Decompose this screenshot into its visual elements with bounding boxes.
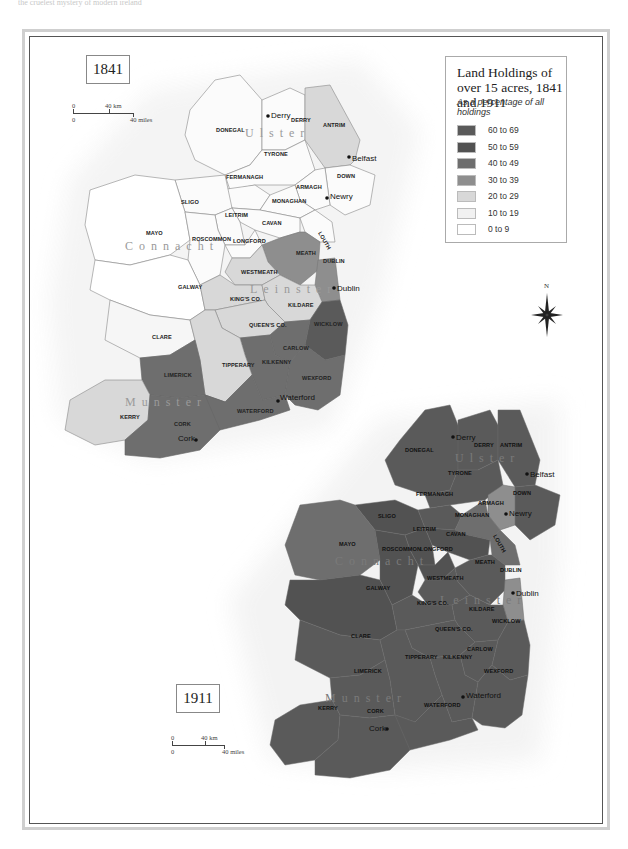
- label-longford-1911: LONGFORD: [420, 546, 453, 552]
- label-cavan-1841: CAVAN: [262, 220, 282, 226]
- town-belfast-1841: Belfast: [352, 154, 377, 163]
- label-roscommon-1911: ROSCOMMON: [382, 546, 421, 552]
- label-queensco-1911: QUEEN'S CO.: [435, 626, 473, 632]
- legend-subtitle: As a percentage of all holdings: [457, 97, 566, 117]
- legend-label: 0 to 9: [488, 224, 509, 234]
- label-westmeath-1911: WESTMEATH: [427, 575, 464, 581]
- legend-label: 40 to 49: [488, 158, 519, 168]
- legend-swatch-20-29: [457, 191, 476, 202]
- label-tyrone-1911: TYRONE: [448, 470, 472, 476]
- town-derry-1911: Derry: [456, 433, 476, 442]
- label-meath-1911: MEATH: [475, 559, 495, 565]
- label-tipperary-1841: TIPPERARY: [222, 362, 255, 368]
- label-waterford-1841: WATERFORD: [237, 408, 274, 414]
- legend-item: 40 to 49: [457, 157, 519, 169]
- legend-label: 20 to 29: [488, 191, 519, 201]
- town-cork-1911: Cork: [369, 724, 387, 733]
- label-meath-1841: MEATH: [296, 250, 316, 256]
- label-tyrone-1841: TYRONE: [264, 151, 288, 157]
- label-kerry-1911: KERRY: [318, 705, 338, 711]
- label-carlow-1911: CARLOW: [467, 646, 493, 652]
- town-dot-belfast-1841: [347, 155, 351, 159]
- label-leitrim-1841: LEITRIM: [225, 212, 248, 218]
- label-clare-1841: CLARE: [152, 334, 172, 340]
- town-cork-1841: Cork: [178, 434, 196, 443]
- town-dot-waterford-1911: [461, 695, 465, 699]
- label-leitrim-1911: LEITRIM: [413, 526, 436, 532]
- scale-bar-1841: 0 40 km 0 40 miles: [72, 102, 182, 128]
- label-clare-1911: CLARE: [351, 633, 371, 639]
- legend-item: 0 to 9: [457, 223, 509, 235]
- town-derry-1841: Derry: [271, 111, 291, 120]
- label-cork-1911: CORK: [367, 708, 384, 714]
- label-queensco-1841: QUEEN'S CO.: [249, 322, 287, 328]
- label-kingsco-1911: KING'S CO.: [417, 600, 449, 606]
- label-kildare-1911: KILDARE: [469, 606, 495, 612]
- label-antrim-1841: ANTRIM: [323, 122, 346, 128]
- legend-swatch-40-49: [457, 158, 476, 169]
- town-dot-newry-1911: [504, 512, 508, 516]
- legend-swatch-50-59: [457, 142, 476, 153]
- label-dublin-1911: DUBLIN: [500, 567, 522, 573]
- label-galway-1841: GALWAY: [178, 284, 202, 290]
- town-dublin-1911: Dublin: [516, 589, 539, 598]
- province-connacht-1911: Connacht: [335, 554, 429, 568]
- map-legend: Land Holdings of over 15 acres, 1841 and…: [445, 56, 567, 243]
- legend-item: 50 to 59: [457, 141, 519, 153]
- label-sligo-1841: SLIGO: [181, 199, 199, 205]
- label-cavan-1911: CAVAN: [446, 531, 466, 537]
- province-leinster-1911: Leinster: [440, 593, 527, 607]
- label-donegal-1841: DONEGAL: [216, 127, 245, 133]
- label-derry-1841: DERRY: [291, 117, 311, 123]
- year-label-1841: 1841: [93, 61, 123, 78]
- legend-swatch-60-69: [457, 125, 476, 136]
- label-down-1911: DOWN: [513, 490, 531, 496]
- legend-label: 30 to 39: [488, 175, 519, 185]
- scale-km-label-1911: 40 km: [201, 734, 217, 741]
- label-monaghan-1841: MONAGHAN: [272, 198, 306, 204]
- scale-mi-label-1841: 40 miles: [130, 116, 152, 123]
- label-galway-1911: GALWAY: [366, 585, 390, 591]
- province-ulster-1841: Ulster: [245, 126, 310, 140]
- scale-km-zero-1841: 0: [72, 102, 75, 109]
- label-fermanagh-1911: FERMANAGH: [416, 491, 453, 497]
- compass-north-label: N: [544, 282, 549, 290]
- town-waterford-1841: Waterford: [280, 393, 315, 402]
- label-tipperary-1911: TIPPERARY: [405, 654, 438, 660]
- town-belfast-1911: Belfast: [530, 470, 555, 479]
- scale-bar-1911: 0 40 km 0 40 miles: [171, 734, 281, 760]
- town-dot-belfast-1911: [525, 472, 529, 476]
- year-box-1911: 1911: [176, 684, 220, 713]
- compass-rose-icon: [531, 293, 563, 337]
- label-sligo-1911: SLIGO: [378, 513, 396, 519]
- legend-item: 10 to 19: [457, 207, 519, 219]
- map-1911: Ulster Connacht Leinster Munster DONEGAL…: [230, 400, 560, 778]
- town-dublin-1841: Dublin: [337, 284, 360, 293]
- scale-km-zero-1911: 0: [171, 734, 174, 741]
- label-mayo-1841: MAYO: [146, 230, 163, 236]
- town-dot-derry-1841: [266, 114, 270, 118]
- province-munster-1841: Munster: [125, 395, 207, 409]
- label-kilkenny-1911: KILKENNY: [443, 654, 473, 660]
- label-kilkenny-1841: KILKENNY: [262, 359, 292, 365]
- legend-item: 20 to 29: [457, 190, 519, 202]
- legend-item: 30 to 39: [457, 174, 519, 186]
- town-newry-1911: Newry: [509, 509, 532, 518]
- town-dot-derry-1911: [451, 435, 455, 439]
- scale-mi-zero-1841: 0: [72, 116, 75, 123]
- legend-swatch-0-9: [457, 224, 476, 235]
- label-wexford-1911: WEXFORD: [484, 668, 513, 674]
- legend-item: 60 to 69: [457, 124, 519, 136]
- label-limerick-1841: LIMERICK: [164, 372, 192, 378]
- label-antrim-1911: ANTRIM: [500, 442, 523, 448]
- province-ulster-1911: Ulster: [455, 451, 520, 465]
- town-dot-dublin-1911: [511, 591, 515, 595]
- legend-swatch-10-19: [457, 208, 476, 219]
- label-kingsco-1841: KING'S CO.: [230, 296, 262, 302]
- label-kerry-1841: KERRY: [120, 414, 140, 420]
- label-donegal-1911: DONEGAL: [405, 447, 434, 453]
- legend-swatch-30-39: [457, 175, 476, 186]
- label-kildare-1841: KILDARE: [288, 302, 314, 308]
- label-roscommon-1841: ROSCOMMON: [192, 236, 231, 242]
- label-wicklow-1911: WICKLOW: [492, 618, 521, 624]
